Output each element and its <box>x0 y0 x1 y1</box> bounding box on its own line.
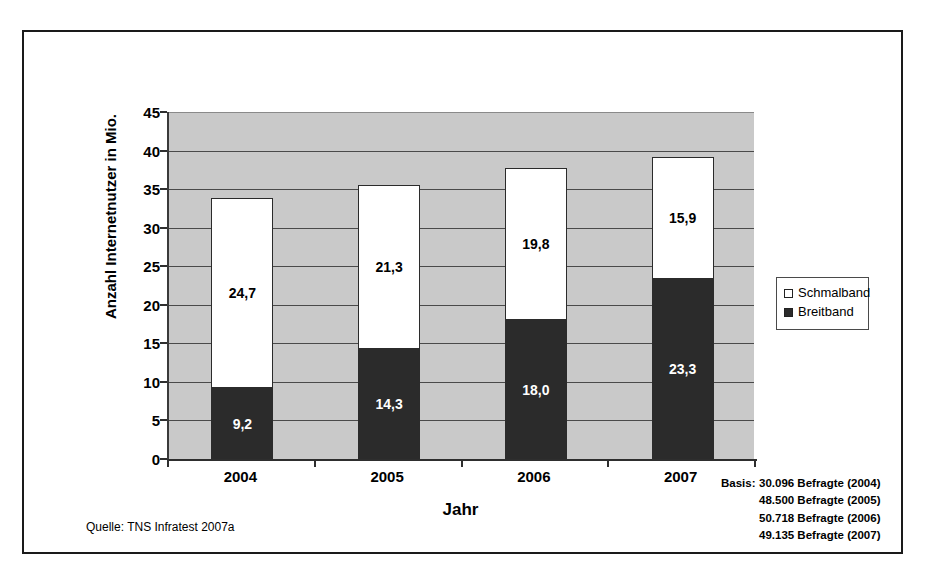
basis-value: 49.135 Befragte (2007) <box>759 529 880 541</box>
chart-legend: SchmalbandBreitband <box>776 277 869 330</box>
x-axis-tick-mark <box>754 459 756 467</box>
basis-value: 50.718 Befragte (2006) <box>759 512 880 524</box>
basis-value: 30.096 Befragte (2004) <box>759 477 880 489</box>
basis-line: Basis:30.096 Befragte (2004) <box>721 475 880 492</box>
x-axis-title: Jahr <box>167 500 754 520</box>
black-square-icon <box>784 308 793 317</box>
x-axis-tick-mark <box>607 459 609 467</box>
basis-label: Basis: <box>721 475 759 492</box>
x-axis-label-2005: 2005 <box>327 468 447 485</box>
y-axis-tick-mark <box>160 342 167 344</box>
bar-segment-breitband-2005: 14,3 <box>358 349 420 459</box>
basis-line: 49.135 Befragte (2007) <box>721 527 880 544</box>
bar-value-label: 9,2 <box>233 416 252 432</box>
bar-segment-schmalband-2005: 21,3 <box>358 185 420 349</box>
x-axis-tick-mark <box>314 459 316 467</box>
x-axis-label-2004: 2004 <box>180 468 300 485</box>
bar-segment-breitband-2004: 9,2 <box>211 388 273 459</box>
y-axis-tick-mark <box>160 150 167 152</box>
x-axis-label-2006: 2006 <box>474 468 594 485</box>
basis-line: 50.718 Befragte (2006) <box>721 510 880 527</box>
plot-area: 9,224,714,321,318,019,823,315,9 <box>167 112 754 459</box>
bar-segment-breitband-2007: 23,3 <box>652 279 714 459</box>
y-axis-tick-mark <box>160 188 167 190</box>
legend-item-breitband: Breitband <box>784 303 861 322</box>
legend-item-schmalband: Schmalband <box>784 284 861 303</box>
bar-value-label: 18,0 <box>522 382 549 398</box>
bar-segment-schmalband-2006: 19,8 <box>505 168 567 321</box>
basis-note: Basis:30.096 Befragte (2004)48.500 Befra… <box>721 475 880 545</box>
y-axis-tick-labels: 051015202530354045 <box>127 32 167 587</box>
gridline <box>169 112 754 113</box>
source-note: Quelle: TNS Infratest 2007a <box>86 520 235 534</box>
y-axis-tick-mark <box>160 419 167 421</box>
y-axis-tick-mark <box>160 458 167 460</box>
legend-item-label: Schmalband <box>798 284 870 303</box>
y-axis-tick-mark <box>160 227 167 229</box>
figure-frame: Anzahl Internetnutzer in Mio. 0510152025… <box>22 30 903 554</box>
basis-line: 48.500 Befragte (2005) <box>721 492 880 509</box>
gridline <box>169 151 754 152</box>
x-axis-tick-mark <box>461 459 463 467</box>
y-axis-tick-mark <box>160 265 167 267</box>
x-axis-tick-mark <box>167 459 169 467</box>
bar-value-label: 19,8 <box>522 236 549 252</box>
bar-segment-schmalband-2004: 24,7 <box>211 198 273 388</box>
bar-value-label: 21,3 <box>376 259 403 275</box>
y-axis-tick-mark <box>160 304 167 306</box>
basis-value: 48.500 Befragte (2005) <box>759 494 880 506</box>
y-axis-title: Anzahl Internetnutzer in Mio. <box>102 67 119 367</box>
y-axis-tick-mark <box>160 111 167 113</box>
bar-value-label: 23,3 <box>669 361 696 377</box>
legend-item-label: Breitband <box>798 303 854 322</box>
white-square-icon <box>784 289 793 298</box>
bar-value-label: 14,3 <box>376 396 403 412</box>
bar-segment-schmalband-2007: 15,9 <box>652 157 714 280</box>
bar-segment-breitband-2006: 18,0 <box>505 320 567 459</box>
bar-value-label: 24,7 <box>229 285 256 301</box>
bar-value-label: 15,9 <box>669 210 696 226</box>
y-axis-tick-mark <box>160 381 167 383</box>
